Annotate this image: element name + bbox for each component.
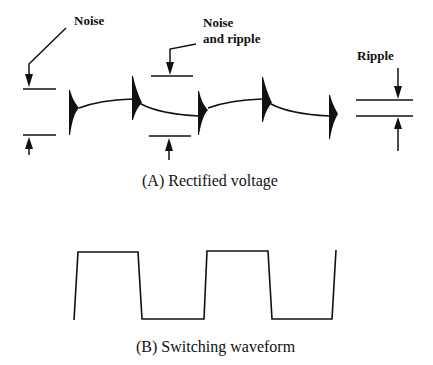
arrow-down-icon <box>394 86 402 99</box>
noise-indicator <box>23 28 66 155</box>
rectified-voltage-waveform <box>69 76 338 139</box>
arrow-down-icon <box>25 74 33 87</box>
ripple-indicator <box>356 68 413 151</box>
noise-burst <box>329 95 338 139</box>
arrow-up-icon <box>165 138 173 151</box>
noise-burst <box>132 76 142 120</box>
noise-and-ripple-indicator <box>149 44 196 160</box>
caption-rectified-voltage: (A) Rectified voltage <box>142 172 278 190</box>
label-noise-and-ripple-line1: Noise <box>203 15 233 31</box>
noise-burst <box>262 77 272 122</box>
arrow-up-icon <box>394 117 402 129</box>
label-ripple: Ripple <box>357 48 394 64</box>
arrow-up-icon <box>25 137 33 149</box>
label-noise-and-ripple-line2: and ripple <box>203 31 260 47</box>
noise-burst <box>198 91 208 135</box>
switching-waveform <box>74 250 336 320</box>
noise-burst <box>69 90 79 135</box>
arrow-down-icon <box>166 62 174 75</box>
caption-switching-waveform: (B) Switching waveform <box>136 338 295 356</box>
label-noise: Noise <box>74 13 104 29</box>
